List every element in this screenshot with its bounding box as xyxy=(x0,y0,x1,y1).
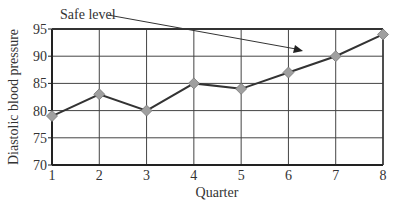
x-tick-label: 8 xyxy=(380,168,387,183)
x-tick-label: 5 xyxy=(238,168,245,183)
data-series xyxy=(47,29,389,122)
diamond-marker-icon xyxy=(330,51,341,62)
y-axis-label: Diastolic blood pressure xyxy=(6,29,21,165)
y-tick-label: 95 xyxy=(33,22,47,37)
y-tick-label: 85 xyxy=(33,76,47,91)
x-tick-label: 2 xyxy=(96,168,103,183)
x-tick-label: 1 xyxy=(49,168,56,183)
y-tick-labels: 707580859095 xyxy=(33,22,47,173)
diamond-marker-icon xyxy=(236,83,247,94)
x-axis-label: Quarter xyxy=(196,185,239,200)
diamond-marker-icon xyxy=(47,111,58,122)
diamond-marker-icon xyxy=(94,89,105,100)
arrow-head-icon xyxy=(293,45,303,53)
annotation-arrow-line xyxy=(108,15,296,49)
diamond-marker-icon xyxy=(378,29,389,40)
x-tick-label: 6 xyxy=(285,168,292,183)
annotation-label: Safe level xyxy=(60,7,116,22)
y-tick-label: 75 xyxy=(33,131,47,146)
line-chart: 707580859095 12345678 Safe level Quarter… xyxy=(0,0,394,209)
x-tick-label: 4 xyxy=(190,168,197,183)
x-tick-label: 3 xyxy=(143,168,150,183)
y-tick-label: 90 xyxy=(33,49,47,64)
diamond-marker-icon xyxy=(141,105,152,116)
x-tick-labels: 12345678 xyxy=(49,168,387,183)
diamond-marker-icon xyxy=(188,78,199,89)
series-line xyxy=(52,34,383,116)
x-tick-label: 7 xyxy=(332,168,339,183)
y-tick-label: 80 xyxy=(33,104,47,119)
y-tick-label: 70 xyxy=(33,158,47,173)
diamond-marker-icon xyxy=(283,67,294,78)
